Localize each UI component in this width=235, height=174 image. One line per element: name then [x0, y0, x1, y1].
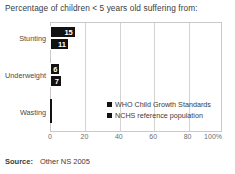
legend-item-nchs: NCHS reference population [107, 110, 211, 120]
x-tick-0: 0 [48, 133, 52, 140]
bar-stunting-who: 15 [50, 26, 76, 38]
bar-stunting-nchs: 11 [50, 38, 69, 50]
x-tick-100: 100% [204, 133, 222, 140]
x-tick-80: 80 [184, 133, 192, 140]
bar-wasting-who [50, 99, 52, 111]
chart-container: Percentage of children < 5 years old suf… [0, 0, 235, 174]
bar-group-stunting: 15 11 [50, 22, 222, 59]
legend-label-nchs: NCHS reference population [115, 111, 203, 120]
bar-wasting-nchs [50, 111, 52, 123]
legend-swatch-icon [107, 102, 112, 107]
category-label-underweight: Underweight [0, 71, 46, 80]
legend-label-who: WHO Child Growth Standards [115, 100, 211, 109]
category-axis: Stunting Underweight Wasting [0, 22, 46, 132]
x-tick-40: 40 [115, 133, 123, 140]
legend: WHO Child Growth Standards NCHS referenc… [107, 99, 211, 121]
category-label-wasting: Wasting [0, 108, 46, 117]
x-tick-20: 20 [80, 133, 88, 140]
bar-group-underweight: 6 7 [50, 59, 222, 96]
x-axis: 0 20 40 60 80 100% [50, 133, 222, 145]
x-tick-60: 60 [149, 133, 157, 140]
legend-item-who: WHO Child Growth Standards [107, 99, 211, 109]
legend-swatch-icon [107, 113, 112, 118]
bar-underweight-nchs: 7 [50, 75, 62, 87]
category-label-stunting: Stunting [0, 34, 46, 43]
source-value: Other NS 2005 [40, 157, 90, 166]
chart-title: Percentage of children < 5 years old suf… [5, 3, 198, 13]
source-footer: Source:Other NS 2005 [5, 157, 90, 166]
bar-underweight-who: 6 [50, 63, 60, 75]
source-label: Source: [5, 157, 33, 166]
